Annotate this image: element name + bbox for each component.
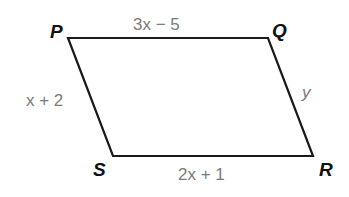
diagram-canvas: P Q R S 3x − 5 y 2x + 1 x + 2 [0,0,349,197]
side-label-sr: 2x + 1 [178,165,225,184]
side-label-qr: y [301,83,312,102]
parallelogram-diagram: P Q R S 3x − 5 y 2x + 1 x + 2 [0,0,349,197]
vertex-label-q: Q [272,20,287,41]
vertex-label-p: P [50,21,63,42]
vertex-label-s: S [93,159,106,180]
parallelogram-pqrs [68,38,313,156]
side-label-ps: x + 2 [26,91,63,110]
side-label-pq: 3x − 5 [133,15,180,34]
vertex-label-r: R [319,159,333,180]
